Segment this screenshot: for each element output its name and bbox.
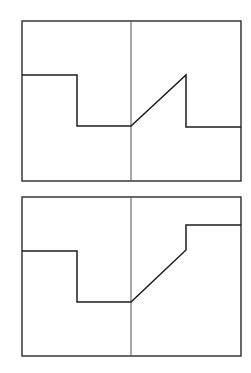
panel-bottom (22, 197, 241, 356)
waveform-diagram (0, 0, 251, 373)
panel-top (22, 21, 241, 181)
